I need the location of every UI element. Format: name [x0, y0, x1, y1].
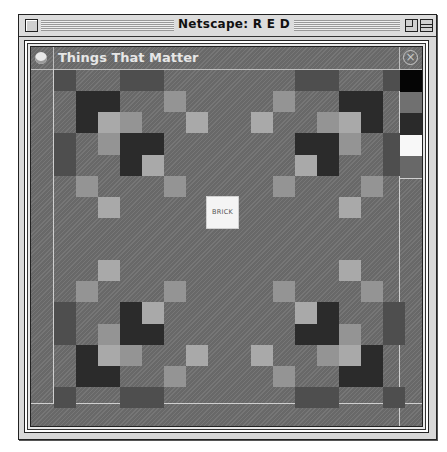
grid-cell[interactable]	[295, 133, 317, 154]
face-icon[interactable]	[35, 52, 47, 64]
close-circle-icon[interactable]: ×	[403, 50, 418, 65]
grid-cell[interactable]	[361, 366, 383, 387]
grid-cell[interactable]	[295, 155, 317, 176]
grid-cell[interactable]	[164, 91, 186, 112]
window-title: Netscape: R E D	[177, 17, 291, 31]
brick-button[interactable]: BRICK	[206, 196, 239, 229]
window-collapse-box[interactable]	[420, 19, 433, 32]
grid-cell[interactable]	[383, 387, 405, 408]
grid-cell[interactable]	[361, 112, 383, 133]
window-titlebar[interactable]: Netscape: R E D	[19, 15, 436, 37]
grid-cell[interactable]	[361, 345, 383, 366]
grid-cell[interactable]	[120, 133, 142, 154]
grid-cell[interactable]	[54, 133, 76, 154]
grid-cell[interactable]	[361, 91, 383, 112]
grid-cell[interactable]	[339, 366, 361, 387]
grid-cell[interactable]	[317, 70, 339, 91]
grid-cell[interactable]	[98, 260, 120, 281]
grid-cell[interactable]	[383, 302, 405, 323]
grid-cell[interactable]	[339, 345, 361, 366]
window-close-box[interactable]	[25, 19, 38, 32]
grid-cell[interactable]	[273, 366, 295, 387]
grid-cell[interactable]	[98, 91, 120, 112]
grid-cell[interactable]	[164, 176, 186, 197]
grid-cell[interactable]	[98, 197, 120, 218]
grid-cell[interactable]	[317, 155, 339, 176]
grid-cell[interactable]	[142, 324, 164, 345]
grid-cell[interactable]	[76, 345, 98, 366]
grid-cell[interactable]	[164, 281, 186, 302]
grid-cell[interactable]	[120, 112, 142, 133]
grid-cell[interactable]	[142, 302, 164, 323]
grid-cell[interactable]	[142, 70, 164, 91]
grid-cell[interactable]	[54, 302, 76, 323]
grid-cell[interactable]	[361, 281, 383, 302]
grid-cell[interactable]	[120, 387, 142, 408]
panel-titlebar: Things That Matter ×	[31, 47, 422, 70]
grid-cell[interactable]	[98, 133, 120, 154]
grid-cell[interactable]	[54, 155, 76, 176]
titlebar-stripes-right	[294, 20, 400, 31]
grid-cell[interactable]	[317, 387, 339, 408]
grid-cell[interactable]	[54, 324, 76, 345]
color-swatch[interactable]	[400, 156, 422, 178]
grid-cell[interactable]	[295, 302, 317, 323]
grid-cell[interactable]	[317, 112, 339, 133]
grid-cell[interactable]	[54, 70, 76, 91]
grid-cell[interactable]	[339, 324, 361, 345]
grid-cell[interactable]	[142, 155, 164, 176]
grid-cell[interactable]	[273, 176, 295, 197]
grid-cell[interactable]	[142, 133, 164, 154]
grid-cell[interactable]	[339, 91, 361, 112]
window-zoom-box[interactable]	[405, 19, 418, 32]
grid-cell[interactable]	[76, 91, 98, 112]
grid-cell[interactable]	[120, 345, 142, 366]
color-swatch[interactable]	[400, 135, 422, 157]
grid-cell[interactable]	[98, 112, 120, 133]
grid-cell[interactable]	[120, 302, 142, 323]
grid-cell[interactable]	[361, 176, 383, 197]
swatch-divider	[400, 178, 422, 179]
grid-cell[interactable]	[383, 324, 405, 345]
grid-cell[interactable]	[339, 260, 361, 281]
grid-cell[interactable]	[273, 91, 295, 112]
grid-cell[interactable]	[76, 366, 98, 387]
grid-cell[interactable]	[54, 387, 76, 408]
grid-cell[interactable]	[186, 345, 208, 366]
color-swatch[interactable]	[400, 70, 422, 92]
grid-cell[interactable]	[339, 197, 361, 218]
panel-close-cell[interactable]: ×	[399, 47, 422, 69]
grid-cell[interactable]	[273, 281, 295, 302]
grid-cell[interactable]	[339, 133, 361, 154]
grid-cell[interactable]	[186, 112, 208, 133]
grid-cell[interactable]	[142, 387, 164, 408]
grid-cell[interactable]	[339, 112, 361, 133]
grid-cell[interactable]	[164, 366, 186, 387]
grid-cell[interactable]	[120, 155, 142, 176]
brick-grid[interactable]	[54, 70, 405, 408]
grid-cell[interactable]	[295, 387, 317, 408]
color-swatch[interactable]	[400, 92, 422, 114]
grid-cell[interactable]	[98, 366, 120, 387]
things-panel: Things That Matter × BRICK	[30, 46, 423, 427]
titlebar-stripes-left	[41, 20, 174, 31]
grid-cell[interactable]	[76, 112, 98, 133]
color-swatch[interactable]	[400, 113, 422, 135]
grid-cell[interactable]	[251, 112, 273, 133]
grid-cell[interactable]	[317, 345, 339, 366]
grid-cell[interactable]	[295, 70, 317, 91]
grid-cell[interactable]	[317, 302, 339, 323]
grid-cell[interactable]	[120, 70, 142, 91]
grid-cell[interactable]	[251, 345, 273, 366]
grid-cell[interactable]	[295, 324, 317, 345]
grid-cell[interactable]	[317, 133, 339, 154]
grid-cell[interactable]	[317, 324, 339, 345]
grid-cell[interactable]	[98, 324, 120, 345]
grid-cell[interactable]	[76, 281, 98, 302]
panel-title: Things That Matter	[58, 50, 198, 65]
grid-cell[interactable]	[76, 176, 98, 197]
panel-icon-cell[interactable]	[31, 47, 54, 69]
page-frame: Things That Matter × BRICK	[24, 40, 429, 433]
grid-cell[interactable]	[120, 324, 142, 345]
grid-cell[interactable]	[98, 345, 120, 366]
